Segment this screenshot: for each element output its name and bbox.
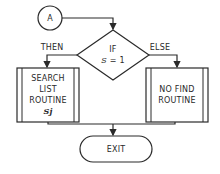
search-line2: LIST	[39, 85, 57, 94]
decision-diamond: IF S = 1	[77, 30, 149, 80]
flow-line-then	[47, 55, 77, 67]
search-line1: SEARCH	[31, 74, 65, 83]
no-find-routine-box: NO FIND ROUTINE	[146, 68, 208, 122]
nofind-line1: NO FIND	[159, 85, 194, 94]
decision-line1: IF	[109, 45, 117, 54]
flow-line-to-decision	[62, 18, 113, 29]
connector-a: A	[38, 6, 62, 30]
exit-terminator: EXIT	[80, 136, 152, 162]
else-label: ELSE	[150, 43, 170, 52]
search-line4: Sj	[43, 106, 52, 116]
connector-label: A	[47, 14, 53, 23]
flow-line-else	[149, 55, 177, 67]
search-line3: ROUTINE	[29, 96, 66, 105]
then-label: THEN	[40, 43, 64, 52]
search-list-routine-box: SEARCH LIST ROUTINE Sj	[17, 68, 79, 122]
decision-condition: = 1	[107, 56, 125, 65]
flowchart-canvas: A IF S = 1 THEN ELSE SEARCH LIST ROUTINE…	[0, 0, 220, 174]
nofind-line2: ROUTINE	[158, 96, 195, 105]
exit-label: EXIT	[107, 145, 126, 154]
decision-line2: S = 1	[101, 56, 124, 65]
